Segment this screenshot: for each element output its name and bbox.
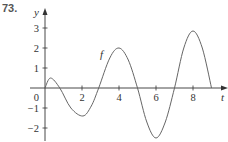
y-axis-label: y: [33, 6, 39, 18]
x-tick-label: 2: [79, 92, 84, 103]
x-tick-label: 8: [190, 92, 195, 103]
plot-area: ty2468−2−11230f: [0, 0, 228, 142]
curve-f: [45, 31, 212, 138]
y-tick-label: −1: [28, 103, 39, 114]
x-tick-label: 6: [153, 92, 158, 103]
y-tick-label: −2: [28, 123, 39, 134]
y-tick-label: 3: [34, 23, 39, 34]
y-tick-label: 1: [34, 63, 39, 74]
x-axis-label: t: [221, 91, 225, 103]
curve-label: f: [100, 48, 105, 60]
figure: 73. ty2468−2−11230f: [0, 0, 228, 142]
x-axis-arrow-icon: [221, 86, 228, 91]
y-tick-label: 2: [34, 43, 39, 54]
origin-label: 0: [34, 92, 39, 103]
x-tick-label: 4: [116, 92, 122, 103]
y-axis-arrow-icon: [43, 8, 48, 15]
